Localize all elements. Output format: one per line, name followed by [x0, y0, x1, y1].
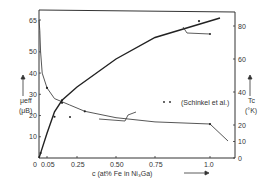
legend: (Schinkel et al.) [163, 99, 229, 107]
x-tick-label: 1.0 [204, 161, 214, 168]
x-tick-label: 0 [33, 161, 37, 168]
tc-curve [39, 18, 220, 158]
annotation-arrows [99, 27, 210, 121]
y-left-tick-label: 50 [29, 48, 37, 55]
y-right-tick-label: 80 [238, 23, 246, 30]
y-left-tick-label: 65 [29, 17, 37, 24]
x-axis-arrow [184, 171, 209, 175]
y-left-tick-label: 10 [29, 133, 37, 140]
y-right-tick-label: 10 [238, 138, 246, 145]
x-tick-label: 0.25 [71, 161, 85, 168]
chart: 00.050.250.500.751.0 102030405065 010204… [0, 0, 269, 178]
x-axis-label: c (at% Fe in Ni₃Ga) [92, 170, 152, 178]
y-right-tick-label: 0 [238, 155, 242, 162]
mu-eff-curve [39, 20, 228, 141]
x-tick-label: 0.05 [41, 161, 55, 168]
x-tick-label: 0.50 [110, 161, 124, 168]
y-right-tick-label: 40 [238, 89, 246, 96]
y-right-label-2: (°K) [245, 107, 257, 115]
x-tick-label: 0.75 [149, 161, 163, 168]
plot-frame [39, 10, 235, 158]
y-right-label-1: Tc [248, 97, 256, 104]
arrow-tip-right [209, 33, 211, 35]
y-right-tick-label: 60 [238, 56, 246, 63]
arrow-tip-left [69, 116, 71, 118]
data-points [40, 20, 212, 154]
y-right-arrow [248, 75, 252, 96]
y-right-tick-label: 20 [238, 122, 246, 129]
y-left-tick-label: 40 [29, 70, 37, 77]
y-left-arrow [21, 75, 25, 96]
legend-label: (Schinkel et al.) [181, 99, 229, 107]
y-left-label-2: (μB) [19, 107, 32, 115]
y-left-label-1: μeff [20, 97, 32, 105]
